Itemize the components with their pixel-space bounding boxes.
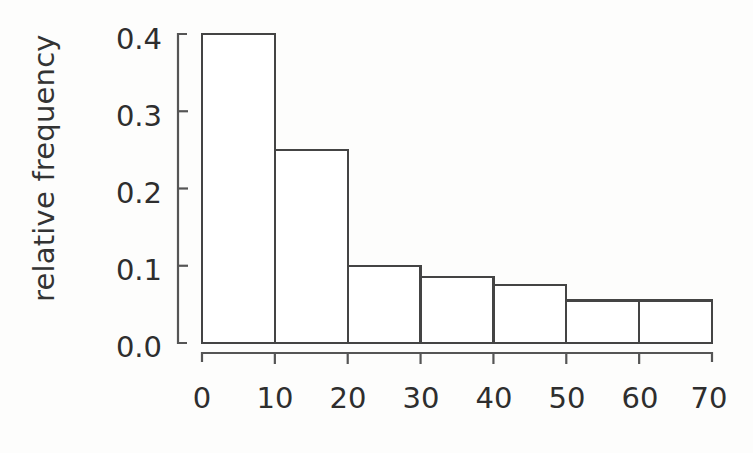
x-axis-line: [202, 353, 712, 364]
histogram-bars: [202, 34, 712, 343]
x-axis-spine: [202, 353, 712, 362]
histogram-bar: [421, 277, 494, 343]
histogram-figure: relative frequency 0.4 0.3 0.2 0.1 0.0 0…: [0, 0, 753, 453]
y-axis-line: [178, 34, 188, 343]
histogram-bar: [348, 266, 421, 343]
histogram-bar: [275, 150, 348, 343]
histogram-bar: [202, 34, 275, 343]
plot-area: [0, 0, 753, 453]
histogram-bar: [493, 285, 566, 343]
histogram-bar: [566, 301, 639, 343]
histogram-bar: [639, 301, 712, 343]
